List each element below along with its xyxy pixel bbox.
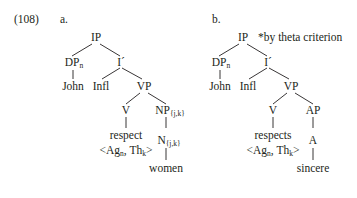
tree-b-dp-node: DPn [212, 56, 230, 69]
tree-a-dp-node: DPn [65, 56, 83, 69]
tree-b-a-node: A [309, 134, 317, 147]
tree-b-ap-node: AP [306, 104, 321, 117]
tree-a-ibar-node: I´ [117, 56, 125, 69]
tree-b-label: b. [212, 13, 221, 26]
tree-a-ip-node: IP [91, 31, 101, 44]
tree-b-vp-node: VP [284, 80, 299, 93]
tree-b-annotation: *by theta criterion [258, 31, 342, 44]
tree-a-label: a. [60, 13, 68, 26]
tree-a-vp-node: VP [137, 80, 152, 93]
tree-b-infl-node: Infl [240, 80, 257, 93]
tree-b-ibar-node: I´ [264, 56, 272, 69]
tree-b-theta-grid: <Agn, Thk> [247, 144, 300, 157]
tree-a-theta-grid: <Agn, Thk> [100, 144, 153, 157]
tree-b-verb-word: respects [254, 129, 291, 142]
tree-b-john-leaf: John [209, 80, 231, 93]
tree-a-n-node: N{j,k} [157, 134, 180, 147]
tree-a-john-leaf: John [62, 80, 84, 93]
tree-a-verb-word: respect [110, 129, 143, 142]
tree-b-sincere-leaf: sincere [297, 162, 330, 175]
tree-a-infl-node: Infl [93, 80, 110, 93]
tree-b-ip-node: IP [238, 31, 248, 44]
tree-a-women-leaf: women [149, 162, 183, 175]
tree-a-np-node: NP{j,k} [155, 104, 185, 117]
tree-a-v-node: V [122, 104, 130, 117]
tree-b-v-node: V [269, 104, 277, 117]
example-number: (108) [14, 13, 39, 26]
